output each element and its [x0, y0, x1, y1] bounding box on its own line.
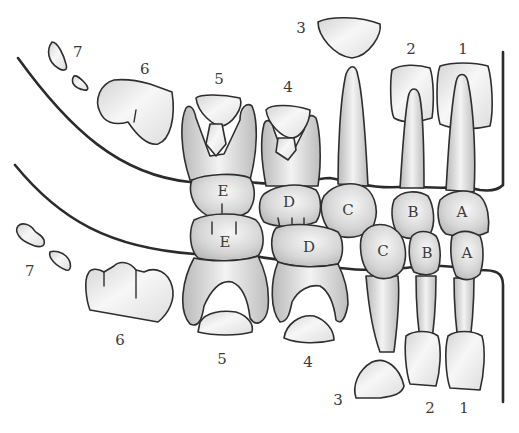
mixed-dentition-diagram: 7 6 E 5 D 4 C 3 B 2: [0, 0, 519, 433]
upper-label-3: 3: [296, 19, 306, 37]
lower-primary-A: A 1: [446, 232, 484, 418]
lower-tooth-6: 6: [86, 263, 173, 349]
lower-label-4: 4: [303, 353, 313, 371]
upper-label-7: 7: [73, 43, 83, 61]
lower-label-1: 1: [459, 399, 469, 417]
lower-tooth-7: 7: [17, 224, 71, 280]
lower-label-A: A: [461, 244, 473, 262]
upper-label-1: 1: [458, 40, 468, 58]
lower-primary-B: B 2: [405, 232, 440, 418]
upper-label-A: A: [456, 203, 468, 221]
upper-label-B: B: [407, 203, 418, 221]
upper-primary-E: E 5: [182, 70, 256, 220]
lower-label-2: 2: [425, 399, 435, 417]
upper-tooth-6: 6: [98, 60, 174, 144]
lower-label-C: C: [377, 242, 388, 260]
upper-label-C: C: [342, 201, 353, 219]
lower-label-B: B: [421, 244, 432, 262]
upper-label-4: 4: [283, 78, 293, 96]
upper-label-2: 2: [406, 40, 416, 58]
upper-primary-A: A 1: [437, 40, 492, 237]
lower-label-3: 3: [333, 391, 343, 409]
lower-primary-D: D 4: [272, 225, 348, 371]
upper-label-D: D: [283, 193, 295, 211]
lower-label-D: D: [303, 238, 315, 256]
upper-tooth-7: 7: [49, 42, 88, 90]
lower-label-5: 5: [217, 350, 227, 368]
upper-primary-D: D 4: [260, 78, 321, 228]
upper-label-5: 5: [214, 70, 224, 88]
lower-label-7: 7: [25, 262, 35, 280]
lower-primary-E: E 5: [183, 214, 269, 368]
upper-label-6: 6: [140, 60, 150, 78]
lower-label-6: 6: [115, 331, 125, 349]
upper-label-E: E: [218, 182, 229, 200]
lower-label-E: E: [220, 233, 231, 251]
upper-primary-B: B 2: [391, 40, 434, 239]
